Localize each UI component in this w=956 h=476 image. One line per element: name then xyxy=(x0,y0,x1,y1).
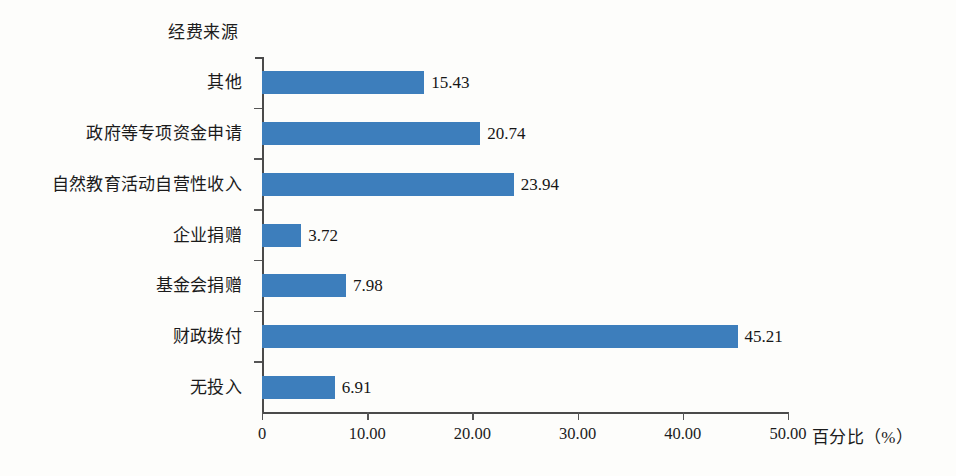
bar-value-label: 45.21 xyxy=(738,325,783,348)
x-axis-line xyxy=(262,412,789,414)
category-label: 基金会捐赠 xyxy=(156,274,243,297)
category-label-wrapper: 其他 xyxy=(4,59,254,105)
bar-row: 20.74政府等专项资金申请 xyxy=(262,110,788,156)
bar-value-label: 15.43 xyxy=(424,71,469,94)
category-label: 企业捐赠 xyxy=(173,224,242,247)
bar-row: 3.72企业捐赠 xyxy=(262,212,788,258)
x-axis-tick-label: 20.00 xyxy=(454,424,491,444)
bar-row: 23.94自然教育活动自营性收入 xyxy=(262,161,788,207)
y-axis-tick xyxy=(254,158,262,159)
x-axis-tick-label: 0 xyxy=(258,424,266,444)
x-axis-title: 百分比（%） xyxy=(812,423,913,448)
category-label-wrapper: 企业捐赠 xyxy=(4,212,254,258)
bar-value-label: 3.72 xyxy=(301,224,338,247)
bar xyxy=(262,122,480,145)
bar-row: 7.98基金会捐赠 xyxy=(262,262,788,308)
y-axis-top-tick xyxy=(255,57,262,59)
x-axis-tick xyxy=(683,412,684,420)
bar-chart: 经费来源 010.0020.0030.0040.0050.00 15.43其他2… xyxy=(0,0,956,476)
y-axis-tick xyxy=(254,108,262,109)
category-label-wrapper: 无投入 xyxy=(4,364,254,410)
y-axis-tick xyxy=(254,209,262,210)
x-axis-tick xyxy=(578,412,579,420)
x-axis-tick xyxy=(262,412,263,420)
y-axis-title: 经费来源 xyxy=(168,18,238,43)
y-axis-tick xyxy=(254,361,262,362)
bar xyxy=(262,71,424,94)
category-label: 无投入 xyxy=(190,376,242,399)
bar-row: 6.91无投入 xyxy=(262,364,788,410)
y-axis-tick xyxy=(254,260,262,261)
bar xyxy=(262,224,301,247)
x-axis-tick xyxy=(788,412,789,420)
category-label-wrapper: 财政拨付 xyxy=(4,313,254,359)
y-axis-tick xyxy=(254,311,262,312)
category-label-wrapper: 基金会捐赠 xyxy=(4,262,254,308)
bar-value-label: 7.98 xyxy=(346,274,383,297)
bar-value-label: 23.94 xyxy=(514,173,559,196)
bar xyxy=(262,376,335,399)
x-axis-tick xyxy=(367,412,368,420)
bar-value-label: 20.74 xyxy=(480,122,525,145)
bar-row: 15.43其他 xyxy=(262,59,788,105)
category-label: 自然教育活动自营性收入 xyxy=(52,173,242,196)
x-axis-tick-label: 40.00 xyxy=(664,424,701,444)
x-axis-tick-label: 50.00 xyxy=(769,424,806,444)
category-label: 政府等专项资金申请 xyxy=(86,122,242,145)
bar-value-label: 6.91 xyxy=(335,376,372,399)
plot-area: 15.43其他20.74政府等专项资金申请23.94自然教育活动自营性收入3.7… xyxy=(262,57,788,412)
category-label: 其他 xyxy=(207,71,242,94)
bar xyxy=(262,325,738,348)
x-axis-tick-label: 30.00 xyxy=(559,424,596,444)
category-label-wrapper: 政府等专项资金申请 xyxy=(4,110,254,156)
bar xyxy=(262,173,514,196)
category-label-wrapper: 自然教育活动自营性收入 xyxy=(4,161,254,207)
category-label: 财政拨付 xyxy=(173,325,242,348)
x-axis-tick-label: 10.00 xyxy=(349,424,386,444)
bar xyxy=(262,274,346,297)
x-axis-tick xyxy=(472,412,473,420)
bar-row: 45.21财政拨付 xyxy=(262,313,788,359)
